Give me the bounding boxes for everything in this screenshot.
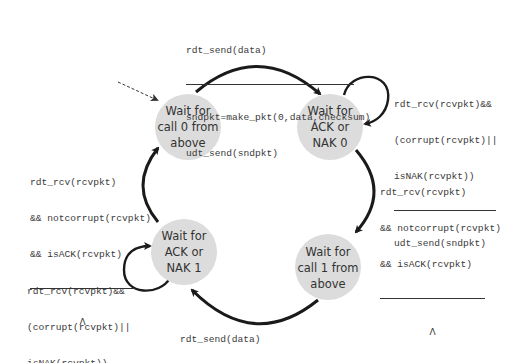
initial-state-arrow	[118, 82, 157, 100]
transition-label-s2-s3: rdt_send(data) sndpkt=make_pkt(1,data,ch…	[180, 310, 350, 363]
action-text: udt_send(sndpkt)	[186, 148, 354, 160]
state-label: NAK 1	[167, 261, 202, 275]
state-wait-call-1: Wait for call 1 from above	[295, 234, 361, 300]
transition-label-s1-s2: rdt_rcv(rcvpkt) && notcorrupt(rcvpkt) &&…	[380, 163, 485, 350]
event-text: rdt_rcv(rcvpkt)	[30, 177, 135, 189]
state-label: Wait for	[162, 229, 207, 243]
state-label: ACK or	[165, 245, 204, 259]
event-text: && isACK(rcvpkt)	[380, 259, 485, 271]
event-text: && notcorrupt(rcvpkt)	[30, 213, 135, 225]
event-text: && isACK(rcvpkt)	[30, 249, 135, 261]
lambda-action: Λ	[30, 316, 135, 328]
event-text: isNAK(rcvpkt))	[27, 358, 127, 363]
state-label: call 1 from	[297, 261, 358, 275]
event-text: (corrupt(rcvpkt)||	[394, 135, 496, 147]
state-label: above	[310, 277, 345, 291]
event-text: rdt_rcv(rcvpkt)	[380, 187, 485, 199]
state-label: Wait for	[306, 245, 351, 259]
divider	[30, 288, 135, 289]
state-wait-ack-nak-1: Wait for ACK or NAK 1	[151, 219, 217, 285]
lambda-action: Λ	[380, 326, 485, 338]
event-text: rdt_rcv(rcvpkt)&&	[394, 99, 496, 111]
transition-label-s0-s1: rdt_send(data) sndpkt=make_pkt(0,data,ch…	[186, 21, 354, 172]
edge-s3-to-s0	[143, 148, 158, 222]
event-text: && notcorrupt(rcvpkt)	[380, 223, 485, 235]
transition-label-s3-s0: rdt_rcv(rcvpkt) && notcorrupt(rcvpkt) &&…	[30, 153, 135, 340]
divider	[380, 298, 485, 299]
event-text: rdt_send(data)	[186, 45, 354, 57]
edge-s1-to-s2	[356, 150, 374, 232]
action-text: sndpkt=make_pkt(0,data,checksum)	[186, 112, 354, 124]
event-text: rdt_send(data)	[180, 334, 350, 346]
divider	[186, 84, 354, 85]
